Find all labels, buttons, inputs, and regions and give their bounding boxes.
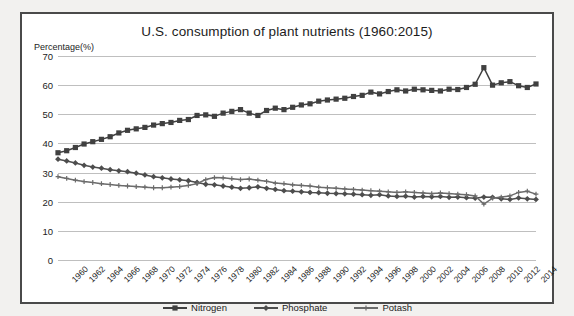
data-point-marker [229, 184, 235, 190]
x-axis-tick-label: 1996 [382, 264, 402, 284]
series-layer [58, 56, 536, 260]
data-point-marker [246, 185, 252, 191]
x-axis-ticks: 1960196219641966196819701972197419761978… [58, 262, 536, 302]
data-point-marker [177, 177, 183, 183]
x-axis-tick-label: 2012 [521, 264, 541, 284]
data-point-marker [490, 83, 495, 88]
x-axis-tick-label: 2002 [435, 264, 455, 284]
gridline [58, 260, 536, 261]
data-point-marker [255, 178, 260, 183]
data-point-marker [81, 162, 87, 168]
data-point-marker [212, 182, 218, 188]
data-point-marker [429, 88, 434, 93]
data-point-marker [377, 189, 382, 194]
data-point-marker [99, 165, 105, 171]
data-point-marker [290, 188, 296, 194]
legend-item-nitrogen[interactable]: Nitrogen [162, 302, 227, 313]
data-point-marker [247, 111, 252, 116]
data-point-marker [403, 189, 408, 194]
legend-label: Potash [382, 302, 412, 313]
data-point-marker [169, 185, 174, 190]
data-point-marker [334, 97, 339, 102]
data-point-marker [368, 188, 373, 193]
data-point-marker [273, 106, 278, 111]
data-point-marker [420, 87, 425, 92]
x-axis-tick-label: 1998 [400, 264, 420, 284]
series-line-nitrogen [58, 68, 536, 153]
data-point-marker [281, 188, 287, 194]
data-point-marker [282, 181, 287, 186]
data-point-marker [342, 96, 347, 101]
data-point-marker [359, 192, 365, 198]
data-point-marker [263, 305, 269, 311]
data-point-marker [473, 82, 478, 87]
data-point-marker [299, 183, 304, 188]
data-point-marker [99, 181, 104, 186]
data-point-marker [499, 80, 504, 85]
legend-marker-plus-icon [353, 303, 379, 313]
data-point-marker [421, 191, 426, 196]
x-axis-tick-label: 1972 [174, 264, 194, 284]
data-point-marker [438, 191, 443, 196]
data-point-marker [290, 182, 295, 187]
data-point-marker [412, 190, 417, 195]
data-point-marker [177, 184, 182, 189]
data-point-marker [299, 102, 304, 107]
x-axis-tick-label: 1978 [226, 264, 246, 284]
data-point-marker [429, 191, 434, 196]
data-point-marker [125, 169, 131, 175]
x-axis-tick-label: 1982 [261, 264, 281, 284]
x-axis-tick-label: 1990 [330, 264, 350, 284]
x-axis-tick-label: 1964 [104, 264, 124, 284]
chart-title: U.S. consumption of plant nutrients (196… [22, 24, 552, 39]
data-point-marker [90, 180, 95, 185]
data-point-marker [73, 178, 78, 183]
data-point-marker [525, 189, 530, 194]
data-point-marker [316, 99, 321, 104]
data-point-marker [386, 89, 391, 94]
data-point-marker [212, 114, 217, 119]
chart-frame: U.S. consumption of plant nutrients (196… [20, 12, 554, 304]
x-axis-tick-label: 2008 [487, 264, 507, 284]
data-point-marker [203, 112, 208, 117]
y-axis-tick-label: 30 [42, 167, 53, 178]
data-point-marker [168, 176, 174, 182]
y-axis-tick-label: 40 [42, 138, 53, 149]
data-point-marker [290, 105, 295, 110]
x-axis-tick-label: 1980 [243, 264, 263, 284]
x-axis-tick-label: 2000 [417, 264, 437, 284]
data-point-marker [368, 192, 374, 198]
data-point-marker [264, 179, 269, 184]
data-point-marker [203, 177, 208, 182]
data-point-marker [142, 172, 148, 178]
x-axis-tick-label: 1968 [139, 264, 159, 284]
data-point-marker [524, 196, 530, 202]
data-point-marker [264, 185, 270, 191]
data-point-marker [455, 192, 460, 197]
data-point-marker [255, 113, 260, 118]
data-point-marker [90, 139, 95, 144]
chart-legend: NitrogenPhosphatePotash [22, 302, 552, 313]
data-point-marker [107, 167, 113, 173]
legend-label: Nitrogen [191, 302, 227, 313]
x-axis-tick-label: 1970 [156, 264, 176, 284]
legend-item-potash[interactable]: Potash [353, 302, 412, 313]
data-point-marker [108, 134, 113, 139]
data-point-marker [481, 65, 486, 70]
data-point-marker [334, 186, 339, 191]
legend-item-phosphate[interactable]: Phosphate [253, 302, 327, 313]
legend-marker-diamond-icon [253, 303, 279, 313]
data-point-marker [438, 88, 443, 93]
data-point-marker [342, 191, 348, 197]
data-point-marker [90, 164, 96, 170]
data-point-marker [325, 97, 330, 102]
data-point-marker [99, 137, 104, 142]
data-point-marker [108, 182, 113, 187]
data-point-marker [351, 187, 356, 192]
y-axis-tick-label: 70 [42, 51, 53, 62]
data-point-marker [134, 184, 139, 189]
data-point-marker [64, 158, 70, 164]
data-point-marker [273, 181, 278, 186]
x-axis-tick-label: 1988 [313, 264, 333, 284]
y-axis-tick-label: 60 [42, 80, 53, 91]
